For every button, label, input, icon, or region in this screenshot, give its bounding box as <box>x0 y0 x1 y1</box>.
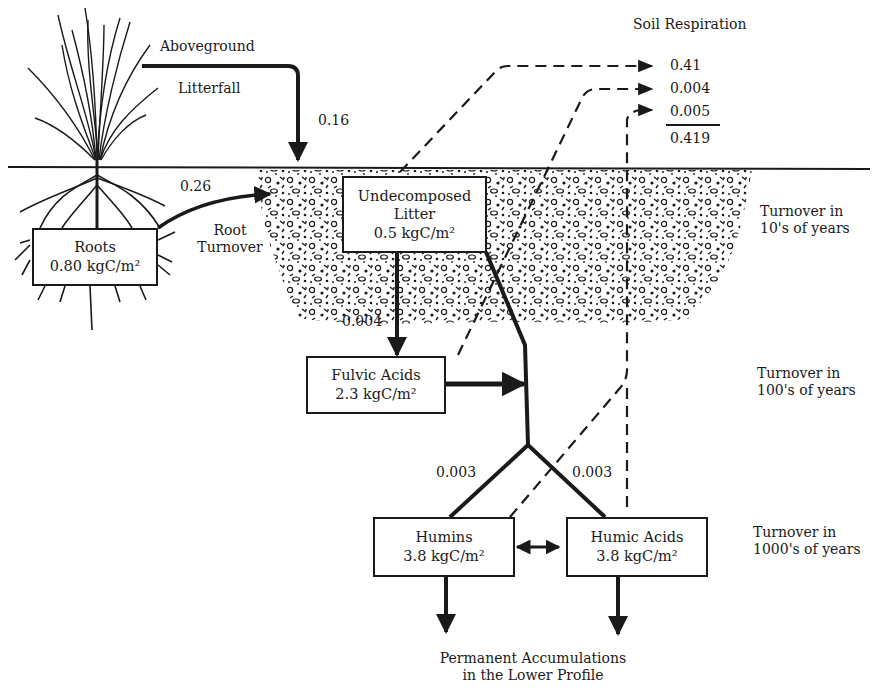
soil-carbon-diagram: Aboveground Litterfall 0.16 0.26 Root Tu… <box>0 0 874 694</box>
litter-to-fulvic-flux-value: 0.004 <box>342 313 382 330</box>
soil-respiration-title: Soil Respiration <box>633 16 746 33</box>
respiration-value-fulvic: 0.004 <box>670 80 710 97</box>
turnover-10s-label: Turnover in 10's of years <box>760 203 850 237</box>
fulvic-pool-box: Fulvic Acids 2.3 kgC/m² <box>306 356 446 414</box>
diagram-artwork <box>0 0 874 694</box>
litterfall-label: Litterfall <box>178 80 241 97</box>
litter-pool-amount: 0.5 kgC/m² <box>374 224 455 243</box>
permanent-accumulation-label: Permanent Accumulations in the Lower Pro… <box>398 650 668 684</box>
turnover-1000s-label: Turnover in 1000's of years <box>753 524 861 558</box>
humins-pool-amount: 3.8 kgC/m² <box>403 547 484 566</box>
aboveground-label: Aboveground <box>160 38 255 55</box>
respiration-value-litter: 0.41 <box>670 57 701 74</box>
turnover-100s-line2: 100's of years <box>757 382 856 399</box>
fulvic-pool-amount: 2.3 kgC/m² <box>335 385 416 404</box>
sink-line1: Permanent Accumulations <box>398 650 668 667</box>
litter-pool-box: Undecomposed Litter 0.5 kgC/m² <box>342 176 487 253</box>
humic-pool-box: Humic Acids 3.8 kgC/m² <box>566 517 708 577</box>
litter-pool-name-2: Litter <box>394 205 435 224</box>
turnover-10s-line1: Turnover in <box>760 203 850 220</box>
respiration-total: 0.419 <box>670 130 710 147</box>
litter-pool-name-1: Undecomposed <box>358 187 471 206</box>
roots-pool-box: Roots 0.80 kgC/m² <box>32 228 158 286</box>
fulvic-pool-name: Fulvic Acids <box>331 366 421 385</box>
turnover-1000s-line1: Turnover in <box>753 524 861 541</box>
roots-pool-name: Roots <box>74 238 116 257</box>
turnover-1000s-line2: 1000's of years <box>753 541 861 558</box>
roots-pool-amount: 0.80 kgC/m² <box>50 257 141 276</box>
humic-pool-amount: 3.8 kgC/m² <box>596 547 677 566</box>
litterfall-flux-value: 0.16 <box>318 112 349 129</box>
humic-flux-value: 0.003 <box>572 464 612 481</box>
root-turnover-label: Root Turnover <box>188 222 272 256</box>
sum-rule <box>666 124 720 126</box>
turnover-100s-line1: Turnover in <box>757 365 856 382</box>
ground-surface-line <box>8 167 870 169</box>
respiration-value-humus: 0.005 <box>670 103 710 120</box>
humins-pool-box: Humins 3.8 kgC/m² <box>373 517 515 577</box>
root-label-line2: Turnover <box>188 239 272 256</box>
root-turnover-flux-value: 0.26 <box>180 178 211 195</box>
grass-plant-icon <box>28 8 158 160</box>
humins-pool-name: Humins <box>415 528 472 547</box>
trunk-to-humins-line <box>450 445 528 517</box>
sink-line2: in the Lower Profile <box>398 667 668 684</box>
root-label-line1: Root <box>188 222 272 239</box>
respiration-litter-dashed <box>400 66 652 172</box>
humic-pool-name: Humic Acids <box>590 528 683 547</box>
turnover-100s-label: Turnover in 100's of years <box>757 365 856 399</box>
turnover-10s-line2: 10's of years <box>760 220 850 237</box>
humins-flux-value: 0.003 <box>436 464 476 481</box>
